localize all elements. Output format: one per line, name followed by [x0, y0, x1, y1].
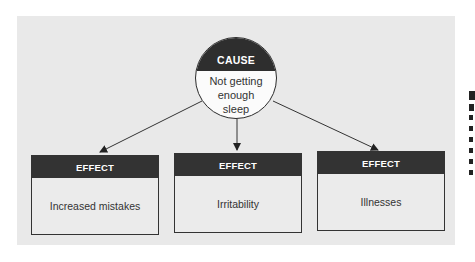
effect-header: EFFECT	[175, 154, 301, 176]
effect-header: EFFECT	[32, 156, 158, 178]
effect-text: Irritability	[175, 176, 301, 232]
arrow-to-effect-1	[100, 101, 202, 152]
effect-box-1: EFFECT Increased mistakes	[31, 155, 159, 235]
arrow-to-effect-3	[273, 101, 378, 150]
cause-node: CAUSE Not getting enough sleep	[195, 37, 277, 119]
effect-box-3: EFFECT Illnesses	[317, 151, 445, 231]
effect-box-2: EFFECT Irritability	[174, 153, 302, 233]
effect-header: EFFECT	[318, 152, 444, 174]
effect-text: Illnesses	[318, 174, 444, 230]
effect-text: Increased mistakes	[32, 178, 158, 234]
